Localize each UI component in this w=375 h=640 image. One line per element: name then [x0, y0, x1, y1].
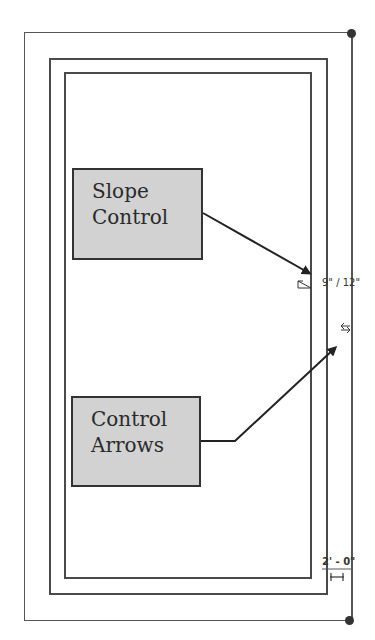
arrows-layer [0, 0, 375, 640]
slope-value-label[interactable]: 9" / 12" [322, 277, 360, 288]
slope-arrow [203, 213, 309, 273]
slope-triangle-icon[interactable] [298, 281, 311, 288]
flip-arrows-icon[interactable] [341, 323, 350, 333]
control-arrows-arrow [201, 348, 335, 441]
dimension-bar-icon[interactable] [330, 573, 344, 581]
dimension-value-label[interactable]: 2' - 0" [322, 556, 355, 567]
